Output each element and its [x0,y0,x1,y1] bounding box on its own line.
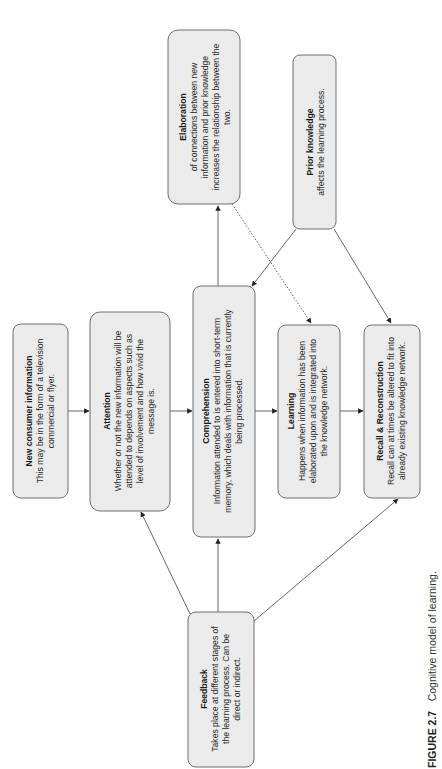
edge-prior-recall [334,229,391,323]
caption-label: FIGURE 2.7 [426,711,438,768]
node-text-line: commercial or flyer. [46,374,56,449]
node-text-line: two. [222,109,232,125]
node-text-line: the knowledge network. [319,366,329,456]
node-text-line: of connections between new [189,62,199,171]
node-title: Recall & Reconstruction [375,361,385,460]
node-comprehension: Comprehension Information attended to is… [193,286,255,537]
edge-prior-comprehension [252,229,296,286]
node-text-line: This may be in the form of a television [35,338,45,483]
node-title: Elaboration [178,93,188,140]
svg-text:FIGURE 2.7 Cognitive mod: FIGURE 2.7 Cognitive model of learning. [422,571,439,768]
node-new-consumer-information: New consumer information This may be in … [13,324,68,498]
node-text-line: direct or indirect. [232,657,242,721]
node-title: Comprehension [201,378,211,443]
node-text-line: Recall can at times be altered to fit in… [386,337,396,485]
node-text-line: being processed. [234,378,244,443]
node-title: Attention [102,392,112,430]
node-text-line: message is. [146,388,156,434]
node-title: Prior knowledge [305,108,315,175]
node-text-line: Whether or not the new information will … [113,331,123,492]
node-text-line: elaborated upon and is integrated into [308,339,318,484]
node-text-line: Happens when information has been [297,341,307,481]
figure-caption: FIGURE 2.7 Cognitive model of learning. [422,571,439,768]
node-prior-knowledge: Prior knowledge affects the learning pro… [293,55,336,229]
node-title: Learning [286,393,296,429]
node-elaboration: Elaboration of connections between new i… [168,30,240,204]
node-recall-reconstruction: Recall & Reconstruction Recall can at ti… [364,325,420,498]
edge-feedback-recall [254,499,398,621]
node-text-line: affects the learning process. [316,88,326,195]
node-text-line: level of involvement and how vivid the [135,339,145,483]
node-title: New consumer information [24,356,34,467]
edge-feedback-attention [141,512,190,614]
node-text-line: Takes place at different stages of [210,626,220,752]
node-text-line: already existing knowledge network. [397,342,407,480]
node-text-line: information and prior knowledge [200,56,210,179]
node-text-line: Information attended to is entered into … [212,318,222,504]
cognitive-learning-diagram: New consumer information This may be in … [0,0,442,769]
node-text-line: memory, which deals with information tha… [223,309,233,513]
caption-text: Cognitive model of learning. [426,571,438,701]
node-learning: Learning Happens when information has be… [278,325,340,498]
node-attention: Attention Whether or not the new informa… [90,312,170,511]
node-feedback: Feedback Takes place at different stages… [188,612,254,767]
node-title: Feedback [199,669,209,709]
node-text-line: increases the relationship between the [211,43,221,190]
node-text-line: the learning process. Can be [221,634,231,744]
node-text-line: attended to depends on aspects such as [124,334,134,488]
